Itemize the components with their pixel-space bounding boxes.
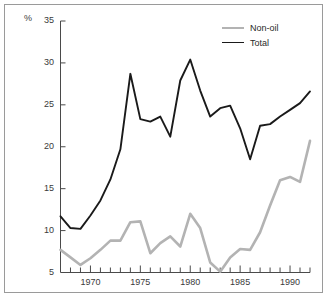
legend-line-swatch xyxy=(222,42,244,43)
legend-item: Non-oil xyxy=(222,20,279,35)
y-tick-label: 15 xyxy=(34,183,54,193)
x-tick-label: 1975 xyxy=(123,277,157,287)
legend-item: Total xyxy=(222,35,279,50)
x-tick-marks xyxy=(70,266,310,273)
x-tick-label: 1970 xyxy=(73,277,107,287)
y-tick-label: 10 xyxy=(34,225,54,235)
legend-line-swatch xyxy=(222,27,244,29)
series-line-total xyxy=(61,60,311,229)
x-tick-label: 1985 xyxy=(223,277,257,287)
y-tick-label: 30 xyxy=(34,57,54,67)
y-tick-label: 5 xyxy=(34,267,54,277)
legend-label: Total xyxy=(250,38,269,48)
chart-legend: Non-oilTotal xyxy=(222,20,279,50)
legend-label: Non-oil xyxy=(250,23,279,33)
data-series-layer xyxy=(61,60,311,272)
y-tick-marks xyxy=(61,21,66,273)
series-line-non-oil xyxy=(61,141,311,272)
y-tick-label: 20 xyxy=(34,141,54,151)
x-tick-label: 1980 xyxy=(173,277,207,287)
y-tick-label: 25 xyxy=(34,99,54,109)
chart-axes xyxy=(61,21,311,273)
y-tick-label: 35 xyxy=(34,15,54,25)
x-tick-label: 1990 xyxy=(273,277,307,287)
